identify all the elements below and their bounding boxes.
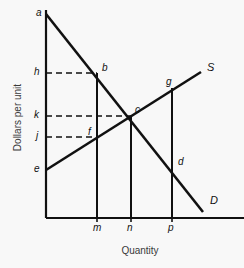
x-axis-title: Quantity [100, 245, 180, 256]
price-tick-label-k: k [34, 109, 39, 120]
price-tick-label-a: a [36, 7, 42, 18]
price-tick-label-e: e [34, 163, 40, 174]
quantity-tick-label-p: p [168, 222, 174, 233]
point-label-c: c [135, 104, 140, 115]
point-label-d: d [178, 156, 184, 167]
curve-label-D: D [210, 194, 218, 206]
point-label-g: g [166, 76, 172, 87]
price-tick-label-h: h [34, 66, 40, 77]
point-label-b: b [102, 62, 108, 73]
supply-demand-figure: Dollars per unit Quantity ahkjemnpbcfgdD… [0, 0, 244, 268]
demand-curve [46, 14, 203, 212]
y-axis-title: Dollars per unit [12, 78, 23, 158]
point-label-f: f [88, 126, 91, 137]
price-tick-label-j: j [36, 130, 38, 141]
curve-label-S: S [207, 61, 214, 73]
quantity-tick-label-n: n [127, 222, 133, 233]
quantity-tick-label-m: m [93, 222, 101, 233]
